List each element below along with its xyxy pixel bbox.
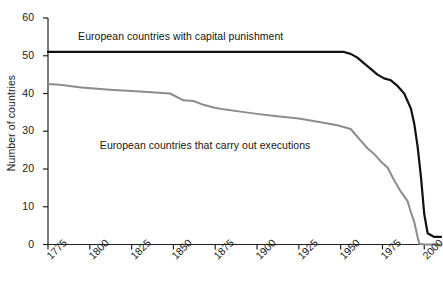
y-axis-tick-label: 30 xyxy=(8,124,34,136)
series-label-1: European countries that carry out execut… xyxy=(100,139,311,151)
y-axis-tick-label: 0 xyxy=(8,238,34,250)
y-axis-tick-label: 40 xyxy=(8,87,34,99)
y-axis-tick-label: 10 xyxy=(8,200,34,212)
y-axis-tick-label: 50 xyxy=(8,49,34,61)
series-label-0: European countries with capital punishme… xyxy=(78,30,283,42)
y-axis-tick-label: 60 xyxy=(8,11,34,23)
chart-container: Number of countries 0102030405060 177518… xyxy=(0,0,443,284)
data-series-line-1 xyxy=(48,84,441,244)
y-axis-tick-label: 20 xyxy=(8,162,34,174)
